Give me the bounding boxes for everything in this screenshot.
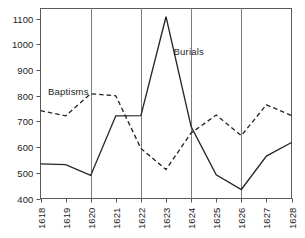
x-tick-label-1622: 1622 [136,208,147,230]
y-tick-label-1000: 1000 [12,39,34,50]
x-tick-label-1623: 1623 [161,208,172,230]
x-tick-label-1624: 1624 [186,208,197,230]
baptisms-burials-line-chart: 40050060070080090010001100 1618161916201… [0,0,305,238]
x-tick-label-1621: 1621 [111,208,122,230]
x-axis-tick-labels: 1618161916201621162216231624162516261627… [36,208,298,230]
y-tick-label-1100: 1100 [13,14,34,25]
x-tick-label-1628: 1628 [287,208,298,230]
chart-container: 40050060070080090010001100 1618161916201… [0,0,305,238]
series-label-burials: Burials [174,46,204,57]
y-tick-label-400: 400 [17,194,33,205]
x-tick-label-1618: 1618 [36,208,47,230]
y-tick-label-600: 600 [17,142,33,153]
y-tick-label-500: 500 [17,168,33,179]
series-label-baptisms: Baptisms [48,86,89,97]
x-tick-label-1627: 1627 [261,208,272,230]
x-tick-label-1626: 1626 [236,208,247,230]
x-tick-label-1619: 1619 [61,208,72,230]
y-axis-ticks: 40050060070080090010001100 [12,14,41,205]
x-axis-ticks [42,199,293,203]
y-tick-label-900: 900 [17,65,33,76]
y-tick-label-700: 700 [17,116,33,127]
x-tick-label-1625: 1625 [211,208,222,230]
x-tick-label-1620: 1620 [86,208,97,230]
y-tick-label-800: 800 [17,91,33,102]
